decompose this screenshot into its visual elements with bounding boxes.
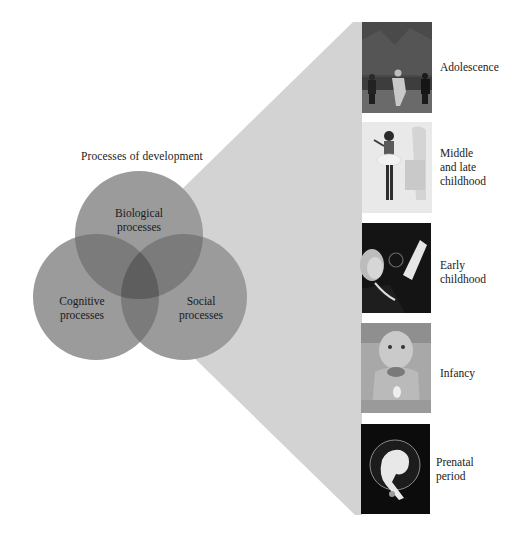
adolescence-photo xyxy=(362,22,432,113)
cognitive-label-line1: Cognitive xyxy=(37,294,127,308)
social-label-line1: Social xyxy=(156,294,246,308)
early-childhood-photo xyxy=(360,223,431,313)
infancy-photo xyxy=(361,323,431,413)
middle-childhood-label-line3: childhood xyxy=(440,174,486,188)
stage-label-prenatal: Prenatal period xyxy=(436,455,474,483)
early-childhood-label-line1: Early xyxy=(440,258,486,272)
social-label-line2: processes xyxy=(156,308,246,322)
biological-label: Biological processes xyxy=(94,206,184,234)
stage-label-infancy: Infancy xyxy=(440,366,475,380)
biological-label-line1: Biological xyxy=(94,206,184,220)
cognitive-label-line2: processes xyxy=(37,308,127,322)
middle-childhood-label-line2: and late xyxy=(440,160,486,174)
diagram-title: Processes of development xyxy=(62,150,222,162)
prenatal-photo xyxy=(361,424,430,514)
development-diagram: Processes of development Biological proc… xyxy=(0,0,515,537)
adolescence-label: Adolescence xyxy=(440,60,499,74)
middle-childhood-photo xyxy=(362,122,432,213)
prenatal-label-line2: period xyxy=(436,469,474,483)
infancy-label: Infancy xyxy=(440,366,475,380)
social-label: Social processes xyxy=(156,294,246,322)
prenatal-label-line1: Prenatal xyxy=(436,455,474,469)
stage-label-early-childhood: Early childhood xyxy=(440,258,486,286)
biological-label-line2: processes xyxy=(94,220,184,234)
middle-childhood-label-line1: Middle xyxy=(440,146,486,160)
stage-label-middle-childhood: Middle and late childhood xyxy=(440,146,486,188)
stage-label-adolescence: Adolescence xyxy=(440,60,499,74)
early-childhood-label-line2: childhood xyxy=(440,272,486,286)
cognitive-label: Cognitive processes xyxy=(37,294,127,322)
